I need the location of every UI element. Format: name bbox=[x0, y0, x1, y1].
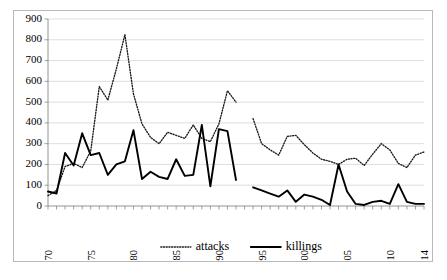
line-chart: 0100200300400500600700800900197019751980… bbox=[14, 11, 432, 261]
x-axis-label: 1970 bbox=[43, 250, 54, 261]
y-axis-label: 700 bbox=[26, 53, 43, 65]
x-axis-label: 2010 bbox=[385, 250, 396, 261]
y-axis-label: 500 bbox=[26, 95, 43, 107]
chart-plot-area: 0100200300400500600700800900197019751980… bbox=[14, 11, 432, 261]
y-axis-label: 200 bbox=[26, 157, 43, 169]
chart-figure: 0100200300400500600700800900197019751980… bbox=[13, 10, 433, 262]
x-axis-label: 2005 bbox=[342, 250, 353, 261]
x-axis-label: 1995 bbox=[257, 250, 268, 261]
y-axis-label: 100 bbox=[26, 178, 43, 190]
x-axis-label: 2014 bbox=[419, 249, 430, 261]
legend-label-killings: killings bbox=[286, 239, 322, 253]
y-axis-label: 800 bbox=[26, 32, 43, 44]
y-axis-label: 600 bbox=[26, 74, 43, 86]
x-axis-label: 1975 bbox=[86, 250, 97, 261]
y-axis-label: 0 bbox=[37, 199, 43, 211]
y-axis-label: 900 bbox=[26, 12, 43, 24]
y-axis-label: 300 bbox=[26, 136, 43, 148]
y-axis-label: 400 bbox=[26, 115, 43, 127]
x-axis-label: 1985 bbox=[171, 250, 182, 261]
legend-label-attacks: attacks bbox=[196, 239, 230, 253]
series-line-attacks bbox=[48, 35, 424, 196]
x-axis-label: 1980 bbox=[128, 250, 139, 261]
series-line-killings bbox=[48, 125, 424, 205]
